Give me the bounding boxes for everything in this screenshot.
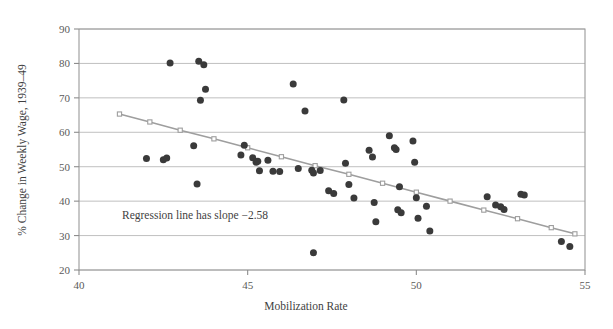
regression-line-marker — [279, 155, 283, 159]
regression-line-marker — [117, 112, 121, 116]
tickmarks-group — [74, 29, 585, 275]
data-point — [310, 169, 317, 176]
y-tick-label: 90 — [59, 23, 71, 35]
x-tick-labels-group: 40455055 — [74, 279, 592, 291]
plot-frame — [79, 29, 585, 270]
scatter-plot-figure: 2030405060708090 40455055 Mobilization R… — [0, 0, 613, 329]
regression-line-marker — [381, 181, 385, 185]
data-point — [330, 190, 337, 197]
data-point — [167, 60, 174, 67]
data-point — [237, 152, 244, 159]
y-tick-label: 60 — [59, 126, 71, 138]
data-point — [426, 228, 433, 235]
x-axis-title: Mobilization Rate — [264, 300, 347, 312]
x-tick-label: 55 — [580, 279, 592, 291]
data-point — [409, 137, 416, 144]
data-point — [241, 142, 248, 149]
data-point — [345, 181, 352, 188]
data-point — [484, 193, 491, 200]
x-tick-label: 40 — [74, 279, 86, 291]
data-point — [290, 81, 297, 88]
data-point — [350, 195, 357, 202]
data-point — [340, 96, 347, 103]
chart-canvas: 2030405060708090 40455055 Mobilization R… — [0, 0, 613, 329]
data-point — [342, 160, 349, 167]
axes-frame — [79, 29, 585, 270]
data-point — [276, 168, 283, 175]
data-point — [521, 191, 528, 198]
regression-line-marker — [482, 208, 486, 212]
data-point — [202, 86, 209, 93]
data-point — [317, 167, 324, 174]
scatter-points-group — [143, 58, 573, 256]
data-point — [310, 249, 317, 256]
data-point — [372, 218, 379, 225]
y-tick-label: 80 — [59, 57, 71, 69]
regression-line-marker — [573, 232, 577, 236]
data-point — [386, 132, 393, 139]
regression-line-marker — [212, 137, 216, 141]
data-point — [254, 158, 261, 165]
data-point — [566, 243, 573, 250]
data-point — [143, 155, 150, 162]
regression-slope-annotation: Regression line has slope −2.58 — [122, 209, 268, 222]
data-point — [190, 142, 197, 149]
data-point — [269, 168, 276, 175]
x-tick-label: 50 — [411, 279, 423, 291]
regression-line-marker — [414, 190, 418, 194]
y-tick-label: 50 — [59, 161, 71, 173]
data-point — [264, 157, 271, 164]
data-point — [369, 154, 376, 161]
data-point — [396, 183, 403, 190]
data-point — [423, 203, 430, 210]
data-point — [411, 159, 418, 166]
y-tick-label: 30 — [59, 230, 71, 242]
y-tick-label: 70 — [59, 92, 71, 104]
data-point — [393, 146, 400, 153]
y-axis-title: % Change in Weekly Wage, 1939–49 — [16, 64, 29, 236]
data-point — [415, 215, 422, 222]
regression-line-marker — [347, 172, 351, 176]
data-point — [256, 167, 263, 174]
data-point — [366, 147, 373, 154]
data-point — [413, 194, 420, 201]
y-tick-label: 20 — [59, 264, 71, 276]
data-point — [558, 238, 565, 245]
data-point — [163, 155, 170, 162]
regression-line-marker — [448, 199, 452, 203]
regression-line-marker — [148, 120, 152, 124]
y-tick-labels-group: 2030405060708090 — [59, 23, 71, 276]
data-point — [197, 97, 204, 104]
data-point — [501, 206, 508, 213]
y-tick-label: 40 — [59, 195, 71, 207]
data-point — [398, 209, 405, 216]
data-point — [194, 180, 201, 187]
regression-line-marker — [515, 217, 519, 221]
regression-line-marker — [549, 226, 553, 230]
x-tick-label: 45 — [242, 279, 254, 291]
regression-line-marker — [313, 164, 317, 168]
data-point — [371, 199, 378, 206]
data-point — [302, 107, 309, 114]
regression-line-marker — [178, 128, 182, 132]
gridlines-group — [79, 29, 585, 270]
data-point — [295, 165, 302, 172]
data-point — [200, 61, 207, 68]
